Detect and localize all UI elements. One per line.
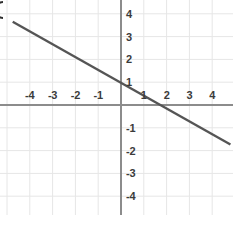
y-tick-label: 4 bbox=[126, 8, 132, 19]
y-tick-label: -4 bbox=[126, 191, 135, 202]
vertical-gridlines bbox=[7, 0, 212, 215]
corner-mark-artifact bbox=[0, 2, 3, 18]
y-tick-label: 3 bbox=[126, 31, 132, 42]
x-tick-label: -3 bbox=[48, 90, 57, 101]
x-tick-label: -4 bbox=[25, 90, 34, 101]
coordinate-graph: -4-3-2-11234 4321-1-2-3-4 bbox=[0, 0, 233, 230]
x-tick-label: 3 bbox=[186, 90, 192, 101]
y-tick-label: -1 bbox=[126, 122, 135, 133]
x-tick-label: -2 bbox=[71, 90, 80, 101]
plot-area bbox=[0, 0, 233, 230]
y-tick-label: -3 bbox=[126, 168, 135, 179]
y-tick-label: -2 bbox=[126, 145, 135, 156]
x-tick-label: 2 bbox=[164, 90, 170, 101]
x-tick-label: 4 bbox=[209, 90, 215, 101]
y-tick-label: 1 bbox=[126, 77, 132, 88]
y-tick-label: 2 bbox=[126, 54, 132, 65]
x-tick-label: -1 bbox=[93, 90, 102, 101]
x-tick-label: 1 bbox=[141, 90, 147, 101]
